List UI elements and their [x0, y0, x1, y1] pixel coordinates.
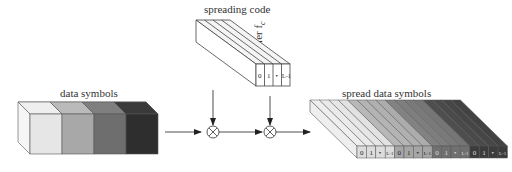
code-cell-1: 1: [267, 72, 271, 80]
signal-flow: [165, 90, 310, 138]
spread-cell-label: 0: [435, 149, 439, 157]
spread-cell-label: 0: [473, 149, 477, 157]
spread-cell-label: L-1: [499, 151, 507, 156]
spreading-code-block: 0 1 • L-1: [196, 20, 291, 86]
spread-cell-label: 0: [398, 149, 402, 157]
code-cell-0: 0: [258, 72, 262, 80]
code-cell-3: L-1: [282, 73, 291, 79]
spread-cell-label: 1: [407, 149, 411, 157]
spread-cell-label: L-1: [386, 151, 394, 156]
spread-data-symbols-block: 01•L-101•L-101•L-101•L-1: [310, 100, 507, 158]
data-symbols-block: [18, 102, 158, 154]
spread-cell-label: 1: [369, 149, 373, 157]
spread-cell-label: L-1: [461, 151, 469, 156]
spread-cell-label: 1: [482, 149, 486, 157]
spread-spectrum-diagram: 0 1 • L-1: [0, 0, 512, 172]
spread-cell-label: 0: [360, 149, 364, 157]
spread-cell-label: 1: [445, 149, 449, 157]
spread-cell-label: L-1: [424, 151, 432, 156]
